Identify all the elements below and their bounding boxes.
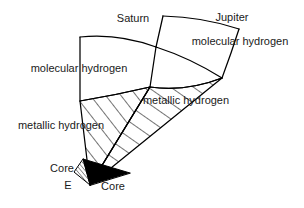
diagram-canvas bbox=[0, 0, 304, 208]
jupiter-molecular-shell bbox=[156, 16, 239, 78]
planet-interior-diagram: Saturn Jupiter molecular hydrogen metall… bbox=[0, 0, 304, 208]
